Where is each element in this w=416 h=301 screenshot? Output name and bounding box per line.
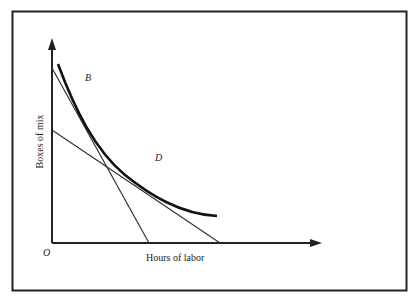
isoquant-curve: [58, 64, 217, 216]
point-label-b: B: [85, 72, 91, 83]
x-axis-arrow-icon: [310, 239, 322, 247]
frame-border: [13, 12, 407, 291]
isoquant-diagram: [0, 0, 416, 301]
point-label-d: D: [155, 152, 162, 163]
shallow-isocost-line: [52, 130, 220, 243]
y-axis-arrow-icon: [48, 38, 56, 50]
steep-isocost-line: [52, 68, 149, 243]
x-axis-label: Hours of labor: [146, 252, 204, 263]
origin-label: O: [43, 247, 50, 258]
y-axis-label: Boxes of mix: [34, 107, 45, 177]
